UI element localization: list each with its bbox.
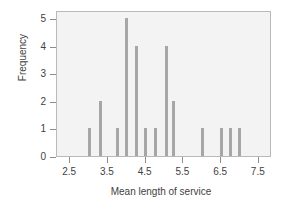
x-tick-label: 2.5 <box>52 166 86 177</box>
y-tick-label: 0 <box>22 152 46 162</box>
x-axis-title: Mean length of service <box>55 186 267 197</box>
y-tick-label: 2 <box>22 97 46 107</box>
bar <box>116 128 119 156</box>
x-tick-mark <box>220 157 221 163</box>
plot-area <box>56 11 271 157</box>
y-tick-label: 3 <box>22 69 46 79</box>
bar <box>220 128 223 156</box>
bar <box>229 128 232 156</box>
y-tick-label: 5 <box>22 14 46 24</box>
x-tick-mark <box>69 157 70 163</box>
bar <box>125 18 128 156</box>
x-tick-mark <box>145 157 146 163</box>
bar <box>201 128 204 156</box>
y-tick-label: 1 <box>22 124 46 134</box>
y-tick-label: 4 <box>22 42 46 52</box>
x-tick-label: 6.5 <box>203 166 237 177</box>
bar <box>172 101 175 156</box>
x-tick-label: 5.5 <box>165 166 199 177</box>
bar <box>165 46 168 156</box>
x-tick-label: 4.5 <box>128 166 162 177</box>
bar <box>154 128 157 156</box>
bar <box>99 101 102 156</box>
x-tick-label: 3.5 <box>90 166 124 177</box>
histogram-figure: Frequency 012345 2.53.54.55.56.57.5 Mean… <box>0 0 286 211</box>
x-tick-mark <box>107 157 108 163</box>
bar <box>135 46 138 156</box>
bar <box>144 128 147 156</box>
bar <box>88 128 91 156</box>
x-tick-mark <box>182 157 183 163</box>
y-tick-mark <box>50 157 56 158</box>
x-tick-mark <box>258 157 259 163</box>
x-tick-label: 7.5 <box>241 166 275 177</box>
bar <box>238 128 241 156</box>
